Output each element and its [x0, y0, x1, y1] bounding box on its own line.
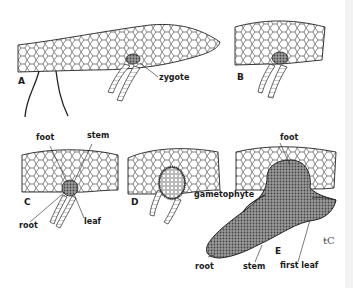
panel-e — [207, 143, 337, 262]
panel-a — [18, 24, 220, 117]
panel-letter-e: E — [275, 247, 281, 256]
panel-d — [128, 149, 220, 224]
gametophyte-tissue-a — [18, 24, 220, 72]
label-foot-e: foot — [280, 134, 298, 142]
label-root-e: root — [195, 263, 214, 271]
panel-b — [235, 21, 325, 98]
label-gametophyte-d: gametophyte — [194, 191, 254, 199]
panel-c — [22, 144, 118, 228]
embryo-b — [272, 52, 288, 64]
embryo-c — [62, 180, 78, 196]
label-stem-e: stem — [243, 263, 265, 271]
label-first-leaf-e: first leaf — [280, 262, 318, 270]
fern-embryo-diagram — [0, 0, 353, 288]
label-foot-c: foot — [36, 134, 54, 142]
artist-signature: ŧC — [323, 235, 335, 246]
panel-letter-d: D — [131, 198, 138, 207]
panel-letter-c: C — [24, 198, 31, 207]
panel-letter-b: B — [237, 73, 244, 82]
panel-letter-a: A — [18, 77, 25, 86]
label-root-c: root — [19, 222, 38, 230]
rhizoid-a1 — [25, 71, 39, 117]
label-leaf-c: leaf — [84, 218, 101, 226]
zygote-a — [126, 54, 140, 64]
label-stem-c: stem — [87, 132, 109, 140]
rhizoid-a2 — [56, 71, 68, 116]
label-zygote: zygote — [159, 74, 189, 82]
